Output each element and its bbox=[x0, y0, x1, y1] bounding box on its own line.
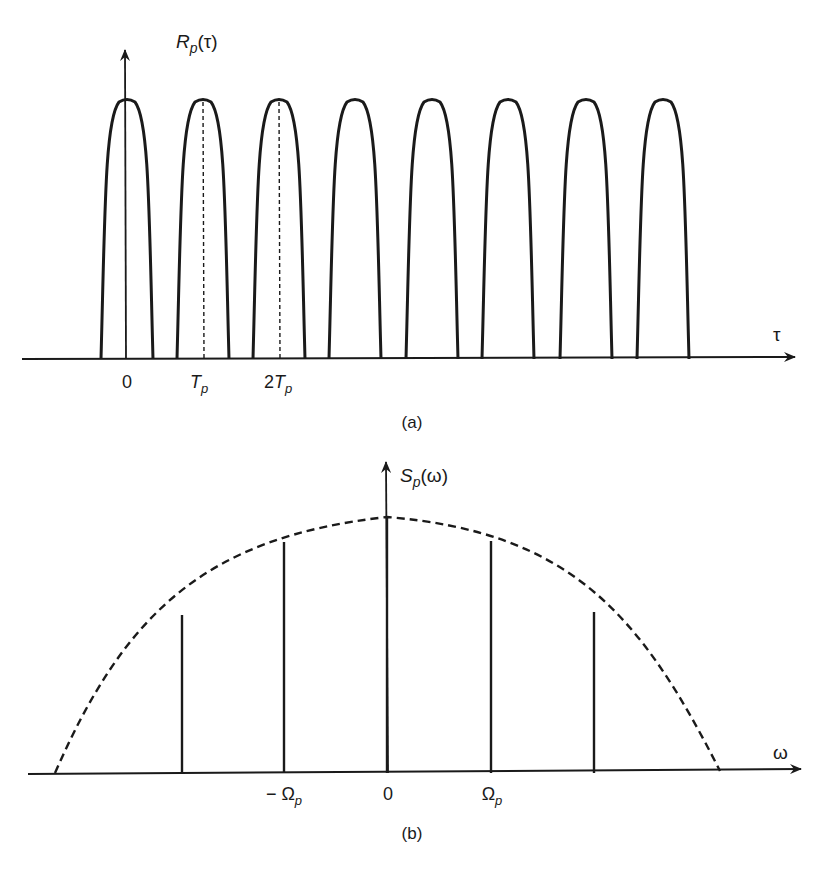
tick-tp: Tp bbox=[190, 372, 208, 396]
caption-a: (a) bbox=[402, 413, 423, 432]
tick-2tp: 2Tp bbox=[264, 372, 292, 396]
tick-zero-a: 0 bbox=[122, 372, 132, 392]
pulse bbox=[329, 100, 381, 360]
r-axis bbox=[125, 50, 126, 359]
period-marker-line bbox=[279, 102, 280, 359]
pulse bbox=[406, 100, 458, 360]
tick-omega-p: Ωp bbox=[482, 784, 503, 808]
figure-canvas: Rp(τ) τ 0 Tp 2Tp (a) Sp(ω) ω − Ωp 0 Ωp (… bbox=[0, 0, 825, 871]
r-axis-label: Rp(τ) bbox=[176, 31, 218, 56]
pulse bbox=[637, 100, 689, 360]
panel-a: Rp(τ) τ 0 Tp 2Tp (a) bbox=[22, 31, 795, 432]
panel-b: Sp(ω) ω − Ωp 0 Ωp (b) bbox=[28, 462, 801, 843]
spectral-lines bbox=[182, 517, 594, 773]
period-markers bbox=[203, 102, 280, 359]
omega-axis bbox=[28, 769, 801, 774]
omega-axis-label: ω bbox=[773, 742, 788, 763]
tau-axis bbox=[22, 357, 795, 359]
period-marker-line bbox=[203, 102, 204, 359]
tick-neg-omega-p: − Ωp bbox=[266, 784, 302, 808]
pulse bbox=[101, 100, 153, 360]
tau-axis-label: τ bbox=[773, 324, 781, 345]
caption-b: (b) bbox=[402, 824, 423, 843]
tick-zero-b: 0 bbox=[383, 784, 393, 804]
pulse bbox=[482, 100, 534, 360]
s-axis-label: Sp(ω) bbox=[400, 465, 448, 490]
autocorrelation-pulses bbox=[101, 100, 689, 360]
pulse bbox=[560, 100, 612, 360]
